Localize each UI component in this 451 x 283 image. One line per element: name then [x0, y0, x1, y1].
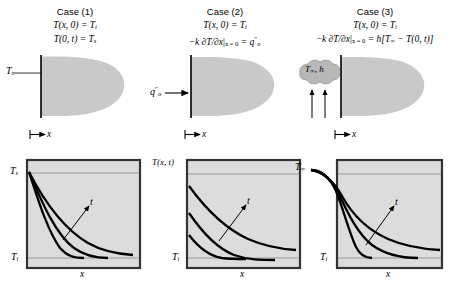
- plot-3-frame: [337, 160, 442, 268]
- case-2-solid: [165, 55, 274, 118]
- plot-1-bottom-label: Ti: [11, 251, 18, 262]
- plot-1-x-label: x: [80, 269, 84, 279]
- case-3-solid: [341, 55, 424, 118]
- plot-2-time-label: t: [247, 195, 250, 206]
- figure-semi-infinite-solid: Case (1) T(x, 0) = Ti T(0, t) = Ts Case …: [0, 0, 451, 283]
- case-2-flux-label: q″o: [150, 85, 161, 97]
- case-1-solid: [14, 55, 124, 118]
- plot-2-top-label: T(x, t): [152, 157, 174, 167]
- case-3-x-label: x: [352, 129, 356, 139]
- plot-2-bottom-label: Ti: [172, 251, 179, 262]
- plot-1-time-label: t: [90, 196, 93, 207]
- case-1-x-axis: [30, 130, 45, 139]
- plot-1-top-label: Ts: [10, 165, 18, 176]
- case-1-surface-temp-label: Ts: [6, 65, 14, 76]
- case-3-x-axis: [335, 130, 350, 139]
- case-1-x-label: x: [47, 129, 51, 139]
- case-2-x-label: x: [202, 129, 206, 139]
- plot-2: [187, 160, 300, 268]
- plot-2-x-label: x: [240, 269, 244, 279]
- case-3-fluid-label: T∞, h: [305, 64, 324, 74]
- plot-2-frame: [187, 160, 300, 268]
- plot-3-x-label: x: [386, 269, 390, 279]
- figure-artwork: [0, 0, 451, 283]
- case-2-x-axis: [185, 130, 200, 139]
- plot-1: [27, 160, 140, 268]
- case-3-convection-arrows: [312, 90, 325, 118]
- plot-3-top-label: T∞: [295, 161, 305, 172]
- plot-3-bottom-label: Ti: [320, 251, 327, 262]
- plot-3-time-label: t: [395, 196, 398, 207]
- plot-3: [311, 160, 442, 268]
